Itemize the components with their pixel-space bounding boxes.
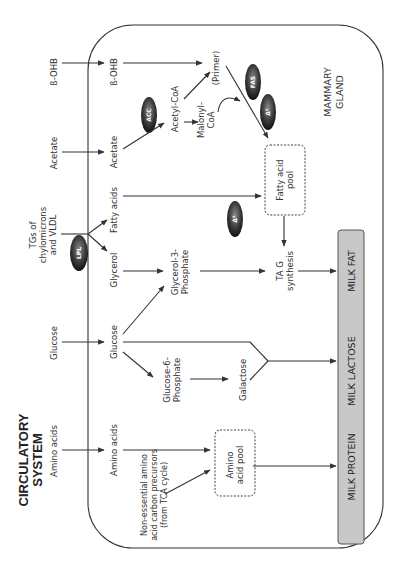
enzyme-lpl: LPL	[70, 235, 88, 271]
enzyme-delta9-mid: Δ⁹	[227, 201, 243, 237]
node-malonyl-coa: Malonyl- CoA	[196, 102, 216, 138]
svg-text:Glycerol-3-: Glycerol-3-	[170, 249, 180, 295]
input-bohb: ß-OHB	[49, 58, 59, 86]
node-acetate: Acetate	[109, 136, 119, 169]
svg-text:TA G: TA G	[275, 261, 285, 282]
node-tag-synthesis: TA G synthesis	[275, 250, 295, 291]
svg-text:chylomicrons: chylomicrons	[38, 206, 48, 263]
svg-text:pool: pool	[285, 171, 295, 189]
svg-text:and VLDL: and VLDL	[48, 214, 58, 255]
svg-text:(from TCA cycle): (from TCA cycle)	[160, 462, 169, 528]
node-glycerol-3-phosphate: Glycerol-3- Phosphate	[170, 249, 190, 295]
node-glycerol: Glycerol	[109, 253, 119, 288]
node-glucose-6-phosphate: Glucose-6- Phosphate	[162, 357, 182, 402]
svg-text:Glucose-6-: Glucose-6-	[162, 357, 172, 402]
node-glucose: Glucose	[109, 325, 119, 359]
svg-text:LPL: LPL	[75, 247, 82, 259]
input-glucose: Glucose	[49, 326, 59, 360]
input-amino-acids: Amino acids	[49, 425, 59, 477]
svg-text:synthesis: synthesis	[285, 250, 295, 291]
product-milk-fat: MILK FAT	[346, 250, 357, 292]
enzyme-fas: FAS	[245, 64, 261, 100]
svg-text:acid pool: acid pool	[235, 446, 245, 485]
svg-text:ACC: ACC	[145, 108, 152, 122]
circulatory-system-title: CIRCULATORY SYSTEM	[16, 413, 45, 506]
node-amino-acid-pool: Amino acid pool	[225, 446, 245, 485]
svg-text:CIRCULATORY: CIRCULATORY	[16, 413, 31, 506]
svg-text:CoA: CoA	[206, 111, 216, 128]
svg-text:FAS: FAS	[249, 76, 256, 88]
input-tgs: TGs of chylomicrons and VLDL	[28, 206, 58, 263]
svg-text:Malonyl-: Malonyl-	[196, 102, 206, 138]
svg-text:acid carbon precursors: acid carbon precursors	[150, 449, 159, 541]
node-neaa-precursors: Non-essential amino acid carbon precurso…	[140, 449, 169, 541]
input-acetate: Acetate	[49, 137, 59, 170]
node-fatty-acids: Fatty acids	[109, 187, 119, 233]
enzyme-acc: ACC	[141, 97, 157, 133]
product-milk-protein: MILK PROTEIN	[346, 433, 357, 500]
svg-text:MAMMARY: MAMMARY	[322, 67, 333, 117]
enzyme-delta9-top: Δ⁹	[260, 94, 276, 130]
svg-text:Amino: Amino	[225, 451, 235, 478]
node-bohb: ß-OHB	[109, 58, 119, 86]
svg-text:Δ⁹: Δ⁹	[264, 108, 271, 116]
svg-text:Phosphate: Phosphate	[180, 250, 190, 295]
svg-text:Δ⁹: Δ⁹	[231, 215, 238, 223]
node-fatty-acid-pool: Fatty acid pool	[275, 159, 295, 200]
svg-text:Non-essential amino: Non-essential amino	[140, 454, 149, 536]
node-galactose: Galactose	[238, 359, 248, 401]
mammary-metabolism-diagram: CIRCULATORY SYSTEM ß-OHB Acetate TGs of …	[0, 0, 399, 574]
svg-text:SYSTEM: SYSTEM	[30, 433, 45, 486]
node-acetyl-coa: Acetyl-CoA	[170, 86, 180, 132]
svg-text:Fatty acid: Fatty acid	[275, 159, 285, 200]
node-primer: (Primer)	[211, 51, 221, 85]
product-milk-lactose: MILK LACTOSE	[346, 336, 357, 405]
svg-text:TGs of: TGs of	[28, 220, 38, 249]
svg-text:Phosphate: Phosphate	[172, 358, 182, 403]
svg-text:GLAND: GLAND	[334, 75, 345, 109]
node-amino-acids: Amino acids	[109, 424, 119, 476]
mammary-gland-title: MAMMARY GLAND	[322, 67, 345, 117]
